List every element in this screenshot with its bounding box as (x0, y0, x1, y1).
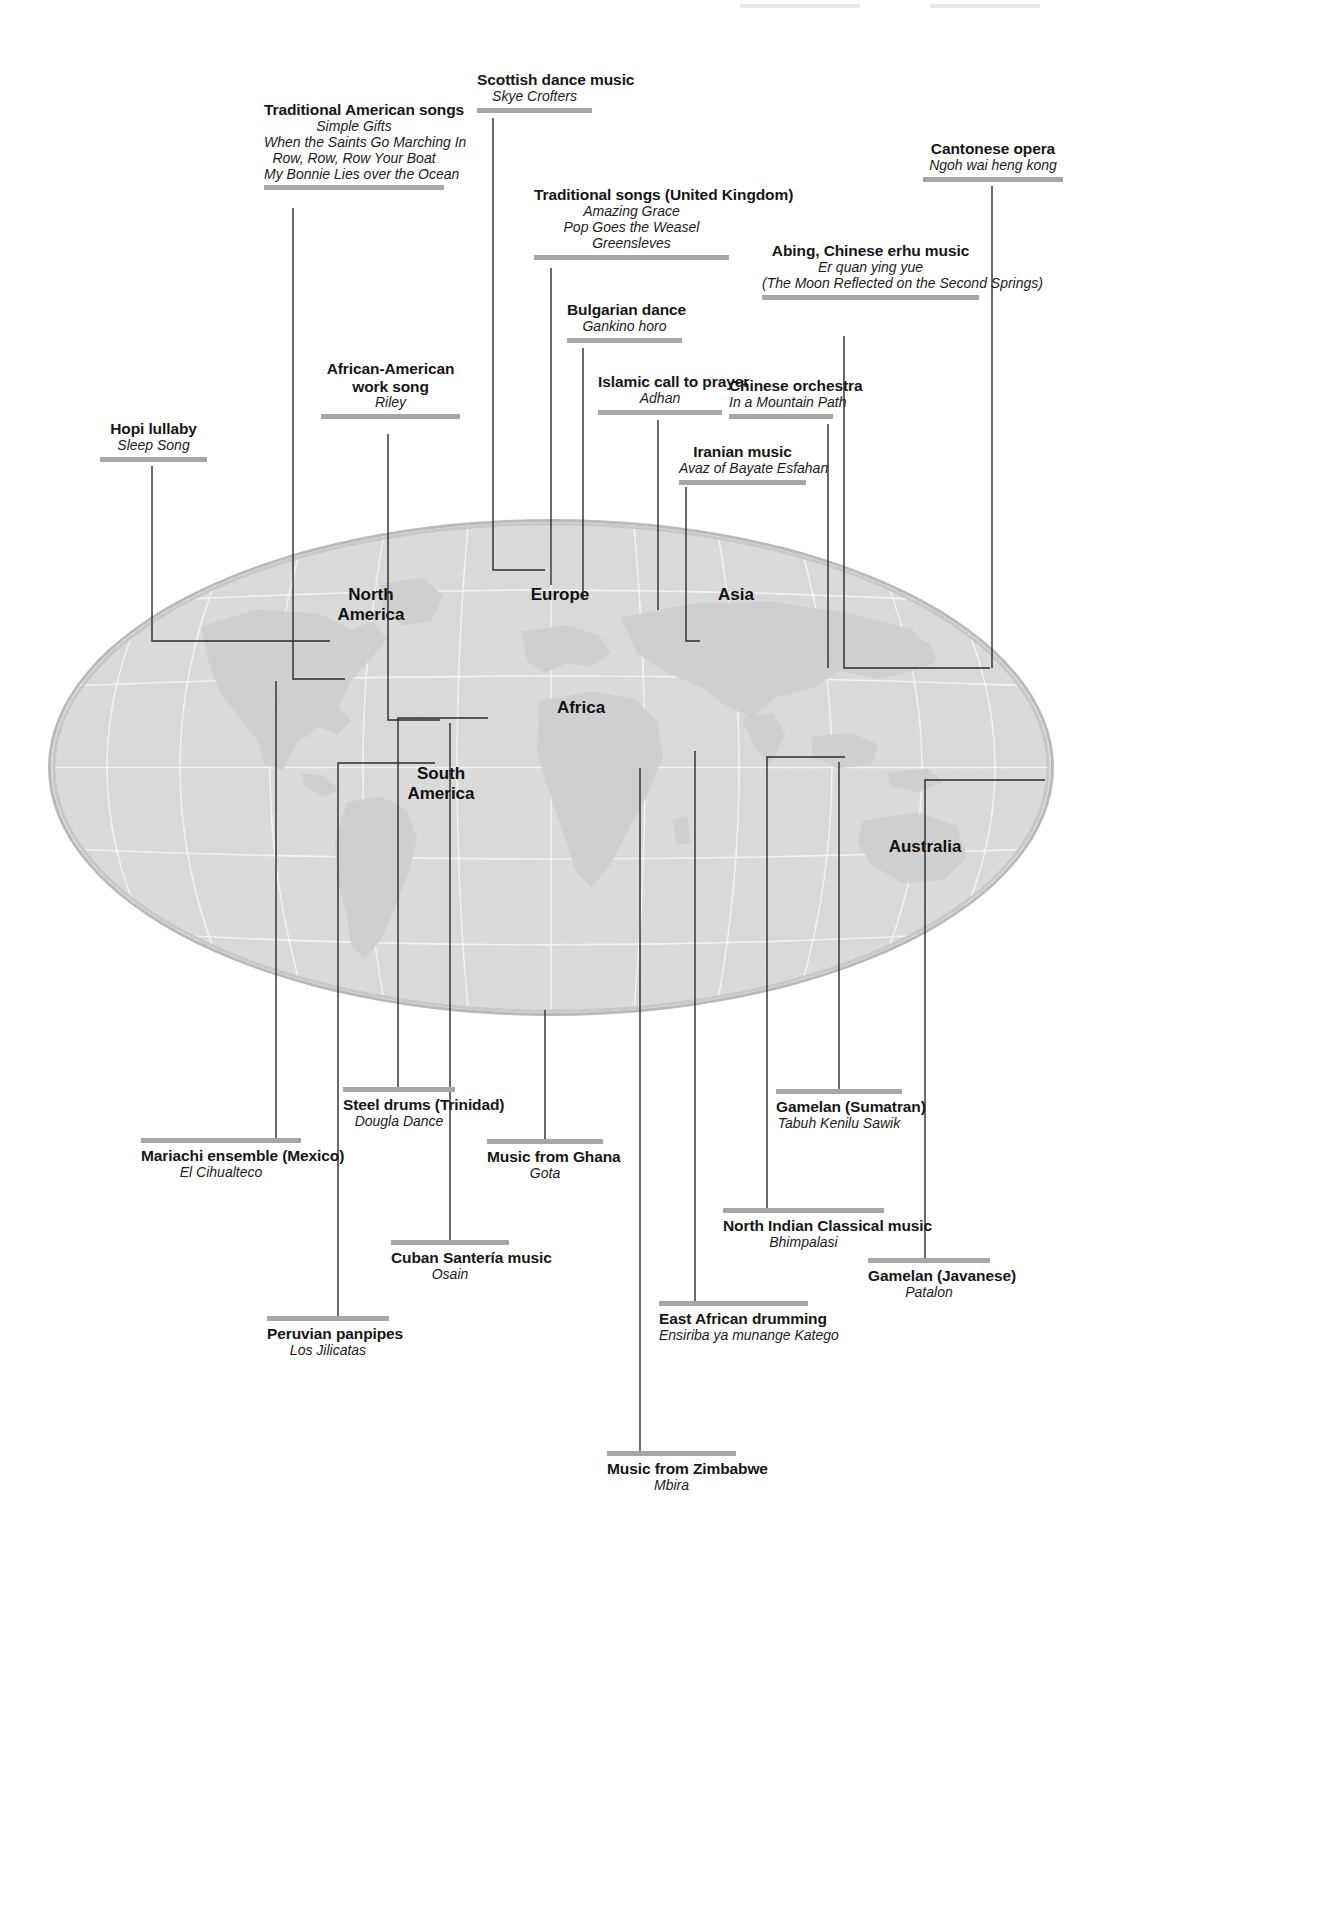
continent-label-australia: Australia (860, 837, 990, 857)
continent-label-south-america: South America (386, 764, 496, 805)
callout-piece: Patalon (868, 1285, 990, 1301)
callout-rule (477, 108, 592, 113)
callout-title: Traditional American songs (264, 101, 444, 119)
callout-title: Chinese orchestra (729, 377, 833, 395)
callout-rule (264, 185, 444, 190)
callout-title: Music from Zimbabwe (607, 1460, 736, 1478)
callout-piece: Ensiriba ya munange Katego (659, 1328, 808, 1344)
callout-piece: Riley (321, 395, 460, 411)
callout-rule (923, 177, 1063, 182)
callout-rule (321, 414, 460, 419)
callout-hopi-lullaby[interactable]: Hopi lullaby Sleep Song (100, 420, 207, 462)
callout-title: East African drumming (659, 1310, 808, 1328)
callout-rule (723, 1208, 884, 1213)
callout-title: Cuban Santería music (391, 1249, 509, 1267)
callout-title: Mariachi ensemble (Mexico) (141, 1147, 301, 1165)
callout-piece: (The Moon Reflected on the Second Spring… (762, 276, 979, 292)
callout-piece: Los Jilicatas (267, 1343, 389, 1359)
callout-piece: Adhan (598, 391, 722, 407)
callout-music-from-ghana[interactable]: Music from Ghana Gota (487, 1139, 603, 1182)
callout-piece: Ngoh wai heng kong (923, 158, 1063, 174)
callout-title: Scottish dance music (477, 71, 592, 89)
callout-gamelan-sumatran[interactable]: Gamelan (Sumatran) Tabuh Kenilu Sawik (776, 1089, 902, 1132)
callout-title: Gamelan (Javanese) (868, 1267, 990, 1285)
callout-steel-drums-trinidad[interactable]: Steel drums (Trinidad) Dougla Dance (343, 1087, 455, 1130)
callout-title: Islamic call to prayer (598, 373, 722, 391)
callout-title: Traditional songs (United Kingdom) (534, 186, 729, 204)
callout-rule (343, 1087, 455, 1092)
callout-piece: Simple Gifts (264, 119, 444, 135)
callout-piece: Greensleves (534, 236, 729, 252)
callout-rule (607, 1451, 736, 1456)
callout-piece: Osain (391, 1267, 509, 1283)
callout-title: Peruvian panpipes (267, 1325, 389, 1343)
callout-piece: Gota (487, 1166, 603, 1182)
callout-title: Music from Ghana (487, 1148, 603, 1166)
callout-cantonese-opera[interactable]: Cantonese opera Ngoh wai heng kong (923, 140, 1063, 182)
callout-piece: Avaz of Bayate Esfahan (679, 461, 806, 477)
callout-rule (729, 414, 833, 419)
callout-rule (598, 410, 722, 415)
callout-piece: Pop Goes the Weasel (534, 220, 729, 236)
callout-piece: Gankino horo (567, 319, 682, 335)
world-map-globe: North America South America Europe Afric… (48, 519, 1054, 1016)
callout-music-from-zimbabwe[interactable]: Music from Zimbabwe Mbira (607, 1451, 736, 1494)
callout-title: Abing, Chinese erhu music (762, 242, 979, 260)
callout-piece: Skye Crofters (477, 89, 592, 105)
callout-traditional-american-songs[interactable]: Traditional American songs Simple Gifts … (264, 101, 444, 190)
callout-african-american-work-song[interactable]: African-American work song Riley (321, 360, 460, 419)
callout-title: Hopi lullaby (100, 420, 207, 438)
callout-cuban-santeria-music[interactable]: Cuban Santería music Osain (391, 1240, 509, 1283)
callout-traditional-songs-united-kingdom[interactable]: Traditional songs (United Kingdom) Amazi… (534, 186, 729, 260)
callout-title: Cantonese opera (923, 140, 1063, 158)
callout-rule (534, 255, 729, 260)
callout-islamic-call-to-prayer[interactable]: Islamic call to prayer Adhan (598, 373, 722, 415)
scan-artifact (0, 0, 1322, 14)
callout-piece: Dougla Dance (343, 1114, 455, 1130)
continent-label-north-america: North America (316, 585, 426, 626)
callout-title: African-American work song (321, 360, 460, 395)
callout-rule (391, 1240, 509, 1245)
callout-piece: Row, Row, Row Your Boat (264, 151, 444, 167)
callout-piece: In a Mountain Path (729, 395, 833, 411)
figure-canvas: North America South America Europe Afric… (0, 0, 1322, 1923)
callout-title: Bulgarian dance (567, 301, 682, 319)
callout-rule (267, 1316, 389, 1321)
callout-title: Steel drums (Trinidad) (343, 1096, 455, 1114)
continent-label-asia: Asia (681, 585, 791, 605)
continent-label-africa: Africa (526, 698, 636, 718)
callout-piece: Amazing Grace (534, 204, 729, 220)
callout-piece: Sleep Song (100, 438, 207, 454)
callout-chinese-orchestra[interactable]: Chinese orchestra In a Mountain Path (729, 377, 833, 419)
callout-gamelan-javanese[interactable]: Gamelan (Javanese) Patalon (868, 1258, 990, 1301)
callout-bulgarian-dance[interactable]: Bulgarian dance Gankino horo (567, 301, 682, 343)
callout-rule (762, 295, 979, 300)
callout-title: Gamelan (Sumatran) (776, 1098, 902, 1116)
callout-rule (679, 480, 806, 485)
callout-north-indian-classical-music[interactable]: North Indian Classical music Bhimpalasi (723, 1208, 884, 1251)
callout-rule (141, 1138, 301, 1143)
callout-scottish-dance-music[interactable]: Scottish dance music Skye Crofters (477, 71, 592, 113)
callout-iranian-music[interactable]: Iranian music Avaz of Bayate Esfahan (679, 443, 806, 485)
callout-title: North Indian Classical music (723, 1217, 884, 1235)
callout-piece: Mbira (607, 1478, 736, 1494)
callout-piece: My Bonnie Lies over the Ocean (264, 167, 444, 183)
callout-rule (659, 1301, 808, 1306)
callout-east-african-drumming[interactable]: East African drumming Ensiriba ya munang… (659, 1301, 808, 1344)
callout-mariachi-ensemble-mexico[interactable]: Mariachi ensemble (Mexico) El Cihualteco (141, 1138, 301, 1181)
callout-rule (776, 1089, 902, 1094)
callout-piece: El Cihualteco (141, 1165, 301, 1181)
callout-abing-chinese-erhu-music[interactable]: Abing, Chinese erhu music Er quan ying y… (762, 242, 979, 300)
continent-label-europe: Europe (505, 585, 615, 605)
callout-rule (487, 1139, 603, 1144)
callout-rule (100, 457, 207, 462)
callout-piece: When the Saints Go Marching In (264, 135, 444, 151)
callout-piece: Tabuh Kenilu Sawik (776, 1116, 902, 1132)
callout-peruvian-panpipes[interactable]: Peruvian panpipes Los Jilicatas (267, 1316, 389, 1359)
callout-title: Iranian music (679, 443, 806, 461)
callout-rule (868, 1258, 990, 1263)
callout-rule (567, 338, 682, 343)
callout-piece: Er quan ying yue (762, 260, 979, 276)
callout-piece: Bhimpalasi (723, 1235, 884, 1251)
